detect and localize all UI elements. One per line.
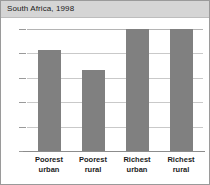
bar: [126, 29, 149, 151]
x-tick-label-line2: rural: [70, 165, 116, 175]
x-tick-label: Poorestrural: [70, 155, 116, 175]
y-tick-mark: [19, 78, 26, 79]
bar: [170, 29, 193, 151]
x-tick-label: Pooresturban: [26, 155, 72, 175]
bar: [38, 50, 61, 151]
x-tick-label-line1: Richest: [167, 155, 194, 164]
chart-title: South Africa, 1998: [7, 4, 74, 13]
y-tick-mark: [19, 127, 26, 128]
x-tick-label: Richestrural: [158, 155, 204, 175]
chart-figure: South Africa, 1998 020406080100 Poorestu…: [0, 0, 210, 185]
bar-series: [27, 29, 203, 151]
x-tick-label-line2: rural: [158, 165, 204, 175]
y-tick-mark: [19, 102, 26, 103]
x-axis-labels: PooresturbanPoorestruralRichesturbanRich…: [27, 155, 203, 183]
x-tick-label: Richesturban: [114, 155, 160, 175]
y-tick-mark: [19, 29, 26, 30]
x-axis-line: [23, 151, 205, 152]
x-tick-label-line2: urban: [26, 165, 72, 175]
y-tick-mark: [19, 53, 26, 54]
x-tick-label-line1: Poorest: [79, 155, 107, 164]
x-tick-label-line1: Poorest: [35, 155, 63, 164]
x-tick-label-line2: urban: [114, 165, 160, 175]
x-tick-label-line1: Richest: [123, 155, 150, 164]
plot-area: [27, 29, 203, 151]
bar: [82, 70, 105, 151]
